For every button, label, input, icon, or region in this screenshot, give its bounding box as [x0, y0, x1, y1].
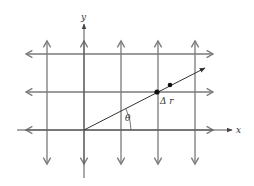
horizontal-grid-lines [26, 54, 213, 130]
theta-label: θ [125, 113, 131, 123]
delta-r-label: Δ r [159, 96, 174, 106]
point-end [168, 83, 173, 88]
point-start [154, 89, 159, 94]
diagram-canvas: x y θ Δ r [0, 0, 254, 186]
y-axis-label: y [80, 12, 87, 22]
radial-ray [84, 68, 205, 130]
x-axis-label: x [236, 125, 241, 135]
